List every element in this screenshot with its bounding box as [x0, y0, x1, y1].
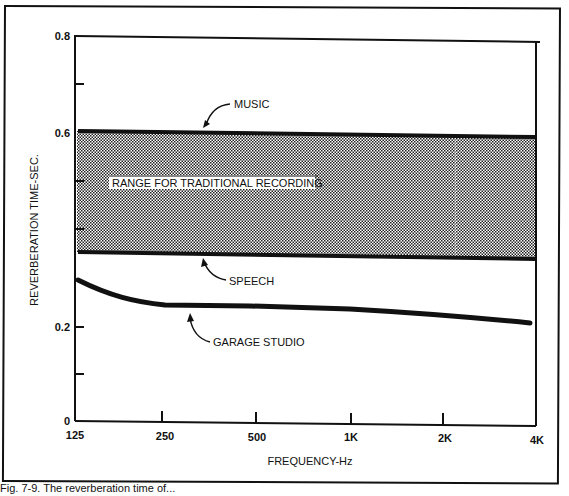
- x-tick-label-1k: 1K: [344, 431, 358, 443]
- y-tick-label-0.8: 0.8: [55, 30, 70, 42]
- music-arrow-icon: [206, 104, 230, 125]
- garage-arrow-icon: [190, 318, 210, 342]
- speech-label: SPEECH: [229, 275, 274, 287]
- garage-studio-line: [78, 280, 530, 323]
- x-tick-label-125: 125: [66, 429, 84, 441]
- traditional-range-band: [77, 131, 535, 259]
- x-axis-title: FREQUENCY-Hz: [267, 455, 352, 467]
- figure-caption: Fig. 7-9. The reverberation time of...: [0, 482, 569, 496]
- y-tick-label-0.2: 0.2: [55, 321, 70, 333]
- garage-arrowhead-icon: [187, 313, 194, 322]
- y-axis-title: REVERBERATION TIME-SEC.: [28, 154, 40, 306]
- x-tick-label-4k: 4K: [530, 434, 544, 446]
- range-label: RANGE FOR TRADITIONAL RECORDING: [112, 177, 323, 189]
- x-tick-label-250: 250: [156, 430, 174, 442]
- y-ticks: [75, 84, 84, 374]
- garage-studio-label: GARAGE STUDIO: [213, 336, 305, 348]
- x-tick-label-2k: 2K: [438, 432, 452, 444]
- x-tick-label-500: 500: [248, 431, 266, 443]
- y-tick-label-0.6: 0.6: [55, 127, 70, 139]
- y-tick-label-0: 0: [64, 415, 70, 427]
- speech-arrowhead-icon: [201, 258, 208, 267]
- music-arrowhead-icon: [203, 120, 210, 128]
- music-label: MUSIC: [234, 98, 270, 110]
- reverberation-chart: 0.8 0.6 0.2 0 125 250 500 1K 2K 4K FREQU…: [0, 0, 569, 496]
